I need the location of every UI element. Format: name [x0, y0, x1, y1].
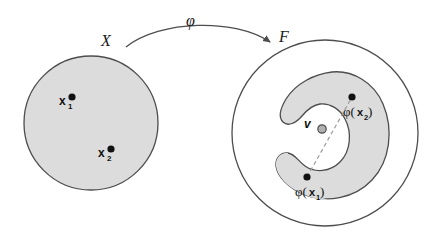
point-x1-subscript: 1	[68, 102, 73, 111]
point-phi-x2-phi: φ(	[343, 104, 355, 119]
point-phi-x1-dot	[303, 173, 310, 180]
feature-space-label: F	[278, 28, 289, 45]
input-space-circle	[24, 56, 158, 190]
phi-map-label: φ	[186, 12, 195, 30]
input-space-group: x 1 x 2 X	[24, 32, 158, 190]
diagram-canvas: x 1 x 2 X φ v	[0, 0, 443, 239]
phi-map-arrow	[126, 25, 270, 47]
mean-vector-marker	[318, 125, 326, 133]
mapping-group: φ	[126, 12, 270, 47]
point-phi-x1-arg: x	[309, 186, 316, 198]
kernel-feature-map-diagram: x 1 x 2 X φ v	[0, 0, 443, 239]
point-phi-x1-phi: φ(	[295, 184, 307, 199]
point-x1-dot	[68, 93, 75, 100]
point-phi-x2-dot	[348, 93, 355, 100]
point-x2-dot	[107, 145, 114, 152]
point-phi-x2-arg: x	[357, 106, 364, 118]
point-phi-x2-close: )	[368, 104, 372, 119]
feature-space-group: v φ( x 2 ) φ( x 1 ) F	[232, 28, 418, 226]
input-space-label: X	[100, 32, 112, 49]
point-x2-subscript: 2	[107, 154, 112, 163]
point-phi-x1-close: )	[320, 184, 324, 199]
point-x1-label: x	[59, 94, 66, 108]
point-x2-label: x	[98, 146, 105, 160]
